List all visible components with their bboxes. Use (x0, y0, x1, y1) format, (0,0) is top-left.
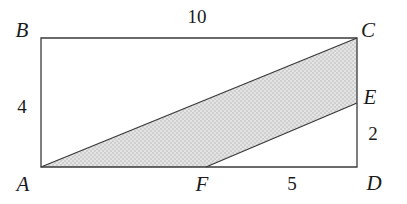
vertex-label-d: D (366, 173, 381, 194)
measure-label-top-bc: 10 (188, 7, 207, 26)
vertex-label-e: E (364, 87, 377, 108)
measure-label-bottom-fd: 5 (287, 174, 297, 193)
vertex-label-b: B (16, 20, 29, 41)
geometry-figure: B C E D F A 10 4 2 5 (0, 0, 407, 204)
vertex-label-f: F (196, 174, 209, 195)
vertex-label-c: C (361, 20, 375, 41)
measure-label-left-ab: 4 (17, 97, 27, 116)
measure-label-right-ed: 2 (368, 124, 378, 143)
vertex-label-a: A (17, 174, 30, 195)
